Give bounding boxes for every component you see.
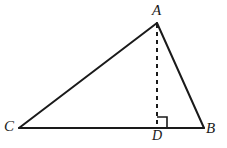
vertex-label-b: B <box>206 121 215 136</box>
segment-AB <box>157 23 204 128</box>
vertex-label-a: A <box>152 3 161 18</box>
triangle-diagram-svg <box>0 0 227 148</box>
vertex-label-c: C <box>4 119 14 134</box>
right-angle-marker-icon <box>157 117 167 127</box>
vertex-label-d: D <box>152 129 162 143</box>
geometry-figure: A B C D <box>0 0 227 148</box>
segment-CA <box>19 23 157 128</box>
